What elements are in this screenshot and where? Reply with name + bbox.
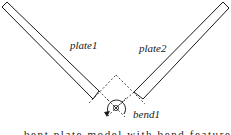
bend1-label: bend1	[133, 109, 160, 120]
bent-plate-diagram	[0, 0, 231, 135]
clipped-caption: bent plate model with bend feature	[0, 127, 231, 135]
plate1-label: plate1	[70, 40, 98, 51]
caption-text: bent plate model with bend feature	[24, 128, 231, 135]
plate2-label: plate2	[139, 43, 167, 54]
